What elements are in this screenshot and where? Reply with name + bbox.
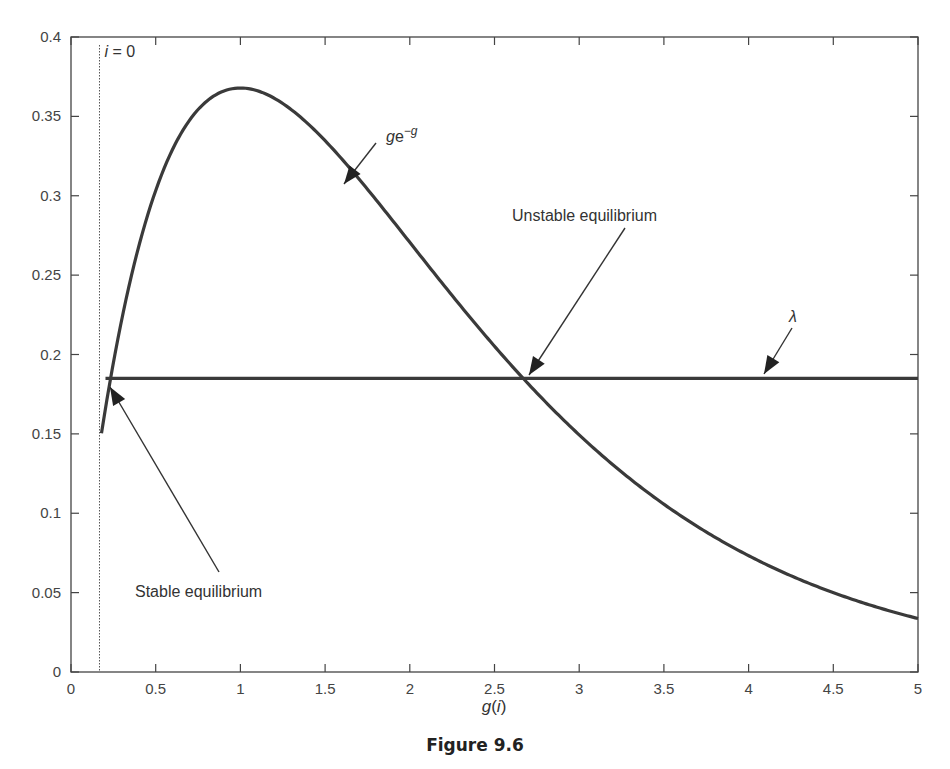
i-zero-dotted-line: i = 0 (99, 43, 135, 672)
y-tick-label: 0.2 (40, 346, 61, 363)
y-tick-label: 0.35 (32, 107, 61, 124)
y-tick-label: 0.3 (40, 187, 61, 204)
y-tick-label: 0 (53, 663, 61, 680)
y-tick-label: 0.25 (32, 266, 61, 283)
figure-caption: Figure 9.6 (0, 735, 950, 755)
x-tick-label: 0 (67, 680, 75, 697)
x-tick-label: 5 (914, 680, 922, 697)
x-tick-label: 1.5 (315, 680, 336, 697)
x-tick-label: 4 (744, 680, 752, 697)
x-tick-label: 3 (575, 680, 583, 697)
annotations: ge−gUnstable equilibriumλStable equilibr… (110, 124, 797, 600)
y-tick-label: 0.4 (40, 28, 61, 45)
label-stable-equilibrium: Stable equilibrium (135, 583, 262, 600)
x-tick-label: 3.5 (653, 680, 674, 697)
x-tick-label: 0.5 (145, 680, 166, 697)
label-unstable-equilibrium: Unstable equilibrium (512, 207, 657, 224)
figure-chart: 00.511.522.533.544.55 00.050.10.150.20.2… (0, 0, 950, 769)
x-tick-label: 2.5 (484, 680, 505, 697)
label-ge-minus-g: ge−g (386, 124, 418, 145)
y-tick-label: 0.05 (32, 584, 61, 601)
y-tick-label: 0.1 (40, 504, 61, 521)
x-tick-label: 2 (406, 680, 414, 697)
label-lambda: λ (788, 308, 797, 325)
x-tick-label: 1 (236, 680, 244, 697)
y-tick-label: 0.15 (32, 425, 61, 442)
data-series (101, 88, 918, 619)
x-tick-label: 4.5 (823, 680, 844, 697)
curve-ge-minus-g (101, 88, 918, 619)
x-axis-label: g(i) (482, 697, 507, 716)
i-zero-label: i = 0 (104, 43, 135, 60)
